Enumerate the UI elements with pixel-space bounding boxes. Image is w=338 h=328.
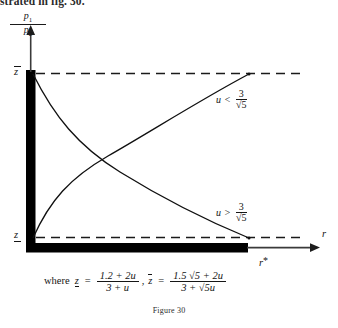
annotation-upper-curve: u < 3 √5 (216, 89, 247, 110)
formula-fraction-2-denominator: 3 + √5u (181, 282, 215, 293)
x-axis-bar (26, 243, 248, 253)
formula-fraction-2-numerator: 1.5 √5 + 2u (170, 270, 226, 282)
y-tick-label-z-overbar: z (14, 66, 21, 78)
formula-fraction-2: 1.5 √5 + 2u 3 + √5u (170, 270, 226, 293)
figure-formula: where z = 1.2 + 2u 3 + u , z = 1.5 √5 + … (44, 270, 228, 293)
underbar (14, 241, 21, 242)
annotation-lower-relation: > (224, 208, 231, 218)
formula-var-z-overbar: z (148, 276, 152, 287)
annotation-upper-denominator: √5 (236, 100, 247, 110)
guide-lines (36, 74, 300, 238)
y-tick-label-z-underbar: z (14, 230, 21, 242)
annotation-lower-curve: u > 3 √5 (216, 202, 247, 223)
annotation-lower-denominator: √5 (236, 213, 247, 223)
y-axis-label-denominator: p2 (10, 25, 46, 38)
annotation-lower-variable: u (216, 208, 221, 218)
y-tick-upper-glyph: z (14, 67, 21, 78)
x-axis-arrowhead (310, 243, 320, 252)
x-tick-label-r-star: r* (259, 255, 268, 268)
annotation-upper-fraction: 3 √5 (236, 89, 247, 110)
y-tick-lower-glyph: z (14, 230, 21, 241)
formula-fraction-1: 1.2 + 2u 3 + u (97, 270, 139, 293)
x-axis-label: r (322, 228, 326, 239)
y-axis-bar (26, 70, 36, 252)
annotation-upper-variable: u (216, 95, 221, 105)
axis-frame (26, 25, 320, 253)
annotation-lower-fraction: 3 √5 (236, 202, 247, 223)
formula-equals-2: = (158, 276, 164, 287)
figure-30: p1 p2 z z r r* u < 3 √5 u > 3 √5 where z… (0, 0, 338, 328)
formula-separator: , (142, 276, 145, 287)
annotation-upper-relation: < (224, 95, 231, 105)
y-axis-label-numerator: p1 (10, 11, 46, 25)
formula-equals-1: = (85, 276, 91, 287)
y-axis-label: p1 p2 (10, 11, 46, 39)
curve-endpoints (248, 73, 251, 240)
figure-caption: Figure 30 (0, 306, 338, 315)
formula-lead: where (44, 276, 70, 287)
star-glyph: * (263, 255, 268, 266)
formula-var-z-underbar: z (75, 276, 79, 288)
formula-fraction-1-denominator: 3 + u (106, 282, 129, 293)
formula-fraction-1-numerator: 1.2 + 2u (97, 270, 139, 282)
endpoint-upper (248, 73, 251, 76)
endpoint-lower (248, 237, 251, 240)
